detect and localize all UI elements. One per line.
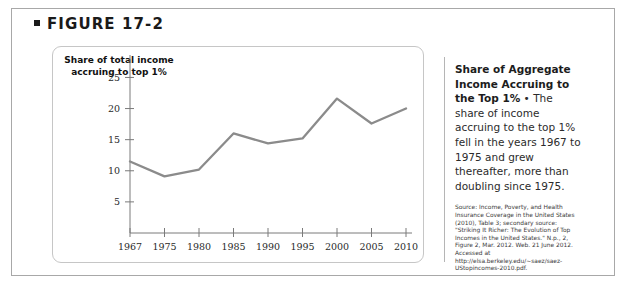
x-axis-tick-label: 2010: [394, 241, 418, 252]
chart-card: Share of total income accruing to top 1%…: [52, 46, 424, 263]
figure-container: FIGURE 17-2 Share of total income accrui…: [0, 0, 633, 292]
y-axis-tick-label: 10: [108, 165, 120, 176]
square-bullet-icon: [34, 20, 40, 26]
caption-block: Share of Aggregate Income Accruing to th…: [455, 62, 583, 273]
x-axis-tick-label: 1975: [152, 241, 176, 252]
x-axis-tick-label: 1980: [187, 241, 211, 252]
caption-description: The share of income accruing to the top …: [455, 92, 581, 192]
caption-divider: [444, 57, 445, 262]
figure-label: FIGURE 17-2: [34, 15, 164, 33]
x-axis-tick-label: 1985: [221, 241, 245, 252]
source-note: Source: Income, Poverty, and Health Insu…: [455, 204, 583, 272]
caption-lead: Share of Aggregate Income Accruing to th…: [455, 63, 571, 104]
x-axis-tick-label: 1967: [118, 241, 142, 252]
caption-text: Share of Aggregate Income Accruing to th…: [455, 62, 583, 193]
x-axis-tick-label: 1990: [256, 241, 280, 252]
x-axis-tick-label: 2005: [359, 241, 383, 252]
data-series-line: [130, 99, 406, 177]
line-chart-plot: 5101520251967197519801985199019952000200…: [53, 47, 423, 262]
x-axis-tick-label: 1995: [290, 241, 314, 252]
x-axis-tick-label: 2000: [325, 241, 349, 252]
y-axis-tick-label: 15: [108, 134, 120, 145]
y-axis-tick-label: 20: [108, 103, 120, 114]
y-axis-tick-label: 25: [108, 72, 120, 83]
y-axis-tick-label: 5: [114, 196, 120, 207]
caption-separator: •: [520, 92, 533, 104]
figure-label-text: FIGURE 17-2: [47, 15, 164, 33]
